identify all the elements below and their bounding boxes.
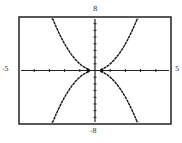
curve-junction-dot [100,69,104,73]
axes [21,19,169,122]
y-min-label: -8 [90,128,97,135]
y-max-label: 8 [93,6,97,13]
plot-area [0,0,182,143]
x-max-label: 5 [175,66,179,73]
curve-junction-dot [86,69,90,73]
x-min-label: -5 [2,66,9,73]
